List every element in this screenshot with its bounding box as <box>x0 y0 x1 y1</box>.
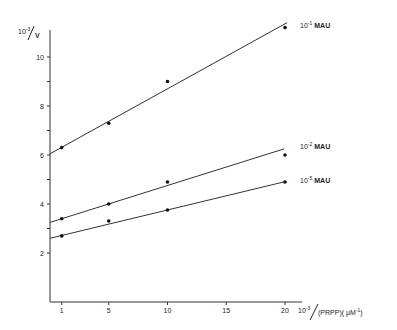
x-tick-label-5: 5 <box>107 307 111 314</box>
data-point <box>60 146 64 150</box>
y-axis-title: 10-3 V <box>18 26 40 40</box>
x-tick-label-10: 10 <box>164 307 172 314</box>
series-10e-5-mau: 10-5MAU <box>50 175 330 238</box>
series-label-10e-5: 10-5MAU <box>300 175 330 184</box>
series-10e-1-mau: 10-1MAU <box>50 20 330 154</box>
x-tick-label-1: 1 <box>60 307 64 314</box>
data-point <box>107 121 111 125</box>
y-tick-label-10: 10 <box>36 54 44 61</box>
data-point <box>283 153 287 157</box>
svg-text:10-3: 10-3 <box>298 305 310 314</box>
x-tick-label-20: 20 <box>281 307 289 314</box>
data-point <box>283 180 287 184</box>
x-tick-label-15: 15 <box>222 307 230 314</box>
data-point <box>283 26 287 30</box>
series-10e-2-mau: 10-2MAU <box>50 141 330 222</box>
y-tick-label-2: 2 <box>40 250 44 257</box>
data-point <box>60 234 64 238</box>
data-point <box>166 180 170 184</box>
x-axis-title: 10-3 (PRPP)( μM-1) <box>298 304 363 320</box>
data-point <box>60 217 64 221</box>
svg-text:V: V <box>35 32 40 39</box>
lineweaver-burk-plot: 2 4 6 8 10 1 5 10 15 20 10-3 V 10-3 (PRP… <box>0 0 397 330</box>
data-point <box>107 219 111 223</box>
data-point <box>107 202 111 206</box>
series-label-10e-1: 10-1MAU <box>300 20 330 29</box>
y-tick-label-8: 8 <box>40 103 44 110</box>
svg-text:(PRPP)( μM-1): (PRPP)( μM-1) <box>318 307 363 317</box>
y-tick-label-6: 6 <box>40 152 44 159</box>
data-point <box>166 208 170 212</box>
series-label-10e-2: 10-2MAU <box>300 141 330 150</box>
data-point <box>166 80 170 84</box>
fit-line <box>50 23 287 154</box>
svg-text:10-3: 10-3 <box>18 26 30 35</box>
y-tick-label-4: 4 <box>40 201 44 208</box>
